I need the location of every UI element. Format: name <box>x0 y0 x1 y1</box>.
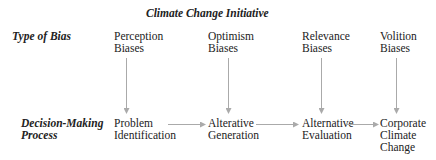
arrows <box>0 0 436 160</box>
